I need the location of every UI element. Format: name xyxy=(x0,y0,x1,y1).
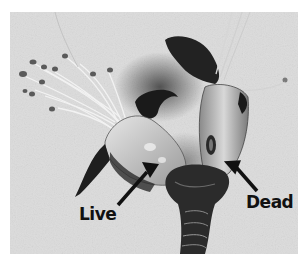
label-dead: Dead xyxy=(246,194,293,211)
flower-bud-photo xyxy=(10,12,298,254)
label-live: Live xyxy=(79,206,116,223)
